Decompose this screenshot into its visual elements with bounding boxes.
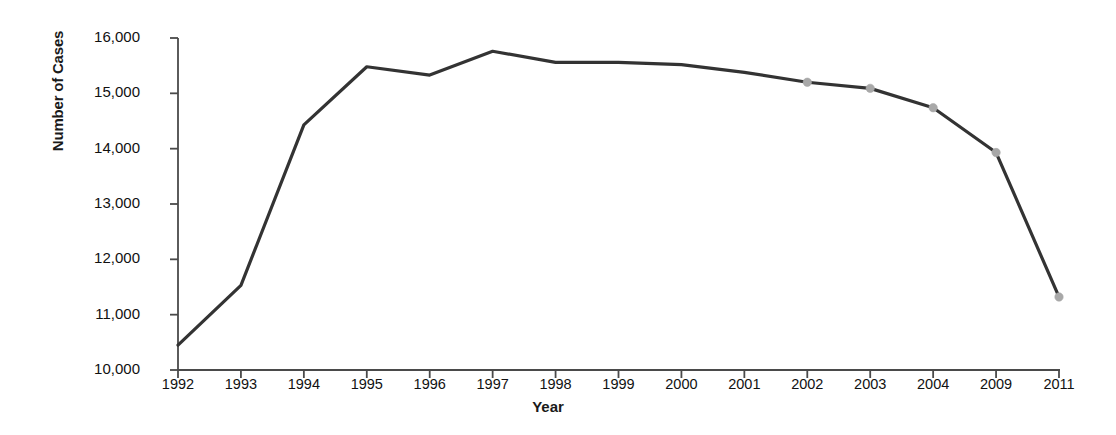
x-axis-tick-label: 1993 bbox=[209, 376, 273, 392]
data-point-marker bbox=[803, 78, 811, 86]
x-axis-tick-label: 1997 bbox=[461, 376, 525, 392]
data-point-marker bbox=[929, 104, 937, 112]
x-axis-tick-label: 2001 bbox=[712, 376, 776, 392]
x-axis-tick-label: 1999 bbox=[587, 376, 651, 392]
plot-area bbox=[0, 0, 1116, 435]
x-axis-tick-label: 2002 bbox=[775, 376, 839, 392]
x-axis-tick-label: 1992 bbox=[146, 376, 210, 392]
x-axis-tick-label: 1996 bbox=[398, 376, 462, 392]
x-axis-tick-label: 1998 bbox=[524, 376, 588, 392]
x-axis-tick-label: 2009 bbox=[964, 376, 1028, 392]
x-axis-tick-label: 1995 bbox=[335, 376, 399, 392]
data-point-marker bbox=[992, 148, 1000, 156]
x-axis-tick-label: 2000 bbox=[649, 376, 713, 392]
data-point-marker bbox=[866, 84, 874, 92]
x-axis-tick-label: 2003 bbox=[838, 376, 902, 392]
x-axis-tick-label: 1994 bbox=[272, 376, 336, 392]
data-line bbox=[178, 51, 1059, 345]
x-axis-tick-label: 2004 bbox=[901, 376, 965, 392]
x-axis-title: Year bbox=[0, 398, 1116, 415]
data-point-marker bbox=[1055, 293, 1063, 301]
x-axis-tick-label: 2011 bbox=[1027, 376, 1091, 392]
x-axis-title-text: Year bbox=[532, 398, 564, 415]
line-chart: Number of Cases 10,00011,00012,00013,000… bbox=[0, 0, 1116, 435]
